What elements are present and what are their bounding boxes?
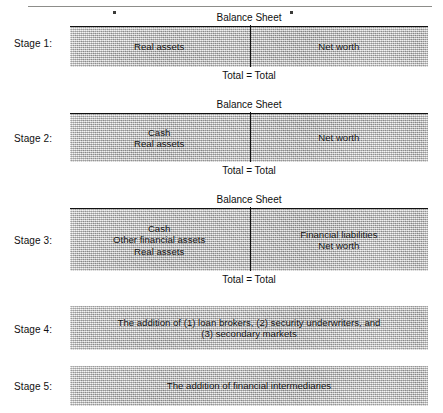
top-divider-rule	[28, 6, 432, 7]
stage-2-balance-sheet-bar: Cash Real assets Net worth	[70, 113, 428, 162]
stage-3-asset-item-1: Cash	[148, 223, 170, 234]
stage-2-asset-item-2: Real assets	[134, 138, 184, 149]
stage-3-asset-item-2: Other financial assets	[113, 234, 205, 245]
stage-5-note-line-1: The addition of financial intermediaries	[167, 380, 331, 391]
stage-1-assets-side: Real assets	[70, 27, 248, 67]
stage-3-assets-side: Cash Other financial assets Real assets	[70, 209, 248, 271]
stage-1-sheet-caption: Balance Sheet	[70, 12, 428, 23]
stage-4-label: Stage 4:	[14, 324, 70, 335]
stage-1-asset-item-1: Real assets	[134, 41, 184, 52]
stage-2-asset-item-1: Cash	[148, 127, 170, 138]
stage-5-note-bar: The addition of financial intermediaries	[70, 366, 428, 406]
stage-4-note-bar: The addition of (1) loan brokers, (2) se…	[70, 306, 428, 350]
stage-1-balance-sheet-bar: Real assets Net worth	[70, 26, 428, 67]
stage-3-balance-sheet-bar: Cash Other financial assets Real assets …	[70, 208, 428, 271]
stage-2-total-caption: Total = Total	[70, 165, 428, 176]
stage-2-label: Stage 2:	[14, 133, 70, 144]
stage-2-liabilities-side: Net worth	[250, 114, 428, 162]
stage-2-assets-side: Cash Real assets	[70, 114, 248, 162]
stage-3-liability-item-1: Financial liabilities	[300, 229, 377, 240]
financial-system-stages-figure: Balance Sheet Stage 1: Real assets Net w…	[0, 0, 443, 413]
stage-1-liability-item-1: Net worth	[318, 41, 359, 52]
stage-1-total-caption: Total = Total	[70, 70, 428, 81]
stage-3-total-caption: Total = Total	[70, 274, 428, 285]
stage-2-liability-item-1: Net worth	[318, 132, 359, 143]
stage-3-liabilities-side: Financial liabilities Net worth	[250, 209, 428, 271]
stage-2-sheet-caption: Balance Sheet	[70, 99, 428, 110]
stage-5-label: Stage 5:	[14, 381, 70, 392]
stage-3-sheet-caption: Balance Sheet	[70, 194, 428, 205]
stage-3-asset-item-3: Real assets	[134, 246, 184, 257]
stage-3-label: Stage 3:	[14, 235, 70, 246]
stage-4-note-line-2: (3) secondary markets	[201, 328, 296, 339]
stage-4-note-text: The addition of (1) loan brokers, (2) se…	[70, 306, 428, 350]
stage-4-note-line-1: The addition of (1) loan brokers, (2) se…	[118, 317, 381, 328]
stage-1-label: Stage 1:	[14, 38, 70, 49]
stage-5-note-text: The addition of financial intermediaries	[70, 366, 428, 406]
stage-3-liability-item-2: Net worth	[318, 240, 359, 251]
stage-1-liabilities-side: Net worth	[250, 27, 428, 67]
